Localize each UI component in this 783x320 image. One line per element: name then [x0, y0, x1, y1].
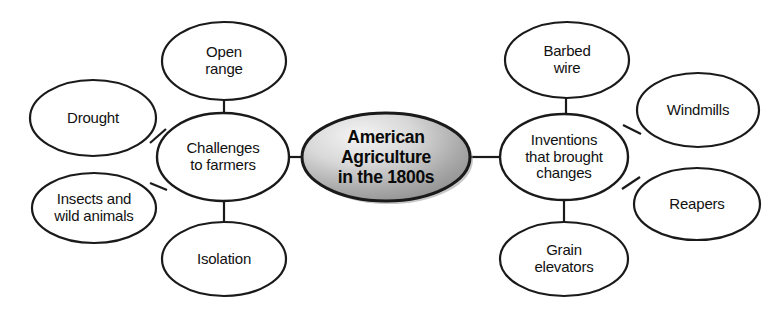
- ellipses-layer: [30, 22, 760, 296]
- diagram-svg: [0, 0, 783, 320]
- node-ellipse-center[interactable]: [302, 113, 470, 201]
- connector-reapers-to-inventions: [622, 177, 640, 189]
- connector-windmills-to-inventions: [623, 125, 641, 134]
- node-ellipse-challenges[interactable]: [157, 113, 289, 201]
- node-ellipse-inventions[interactable]: [500, 114, 628, 200]
- node-ellipse-drought[interactable]: [30, 80, 156, 156]
- node-ellipse-open-range[interactable]: [162, 22, 286, 100]
- node-ellipse-grain-elevators[interactable]: [500, 222, 628, 296]
- concept-map-canvas: American Agriculture in the 1800s Challe…: [0, 0, 783, 320]
- node-ellipse-isolation[interactable]: [162, 222, 286, 296]
- node-ellipse-reapers[interactable]: [634, 168, 760, 240]
- node-ellipse-windmills[interactable]: [637, 73, 759, 147]
- node-ellipse-insects-wild-animals[interactable]: [32, 173, 156, 243]
- connector-insects-to-challenges: [150, 183, 167, 190]
- node-ellipse-barbed-wire[interactable]: [505, 22, 629, 98]
